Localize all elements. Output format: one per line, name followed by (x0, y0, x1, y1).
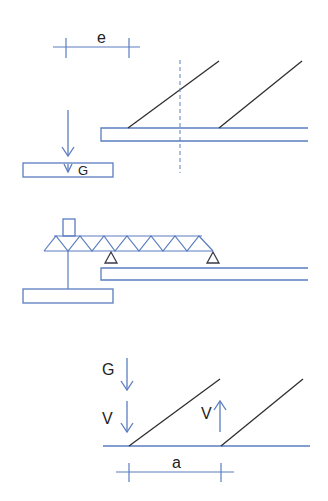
dimension-a-label: a (172, 454, 181, 471)
panel-bottom: G V V a (102, 358, 310, 482)
base-box (23, 289, 113, 303)
load-label-g-bottom: G (102, 361, 114, 378)
arrow-up-icon (214, 401, 226, 432)
dimension-e-label: e (97, 29, 106, 46)
load-label-v-down: V (102, 410, 113, 427)
load-label-g: G (78, 163, 88, 178)
slab-middle (101, 268, 308, 280)
diagonals-top (128, 61, 302, 128)
support-triangle-icon (105, 252, 219, 263)
structural-diagram: e G (0, 0, 328, 501)
diagonals-bottom (129, 379, 303, 446)
truss-beam (44, 236, 213, 251)
truss-weight-box (63, 219, 75, 236)
arrow-down-icon (121, 401, 133, 432)
panel-top: e G (23, 29, 308, 178)
load-label-v-up: V (201, 405, 212, 422)
slab-top (101, 128, 308, 141)
arrow-down-icon (121, 358, 133, 390)
panel-middle (23, 219, 308, 303)
